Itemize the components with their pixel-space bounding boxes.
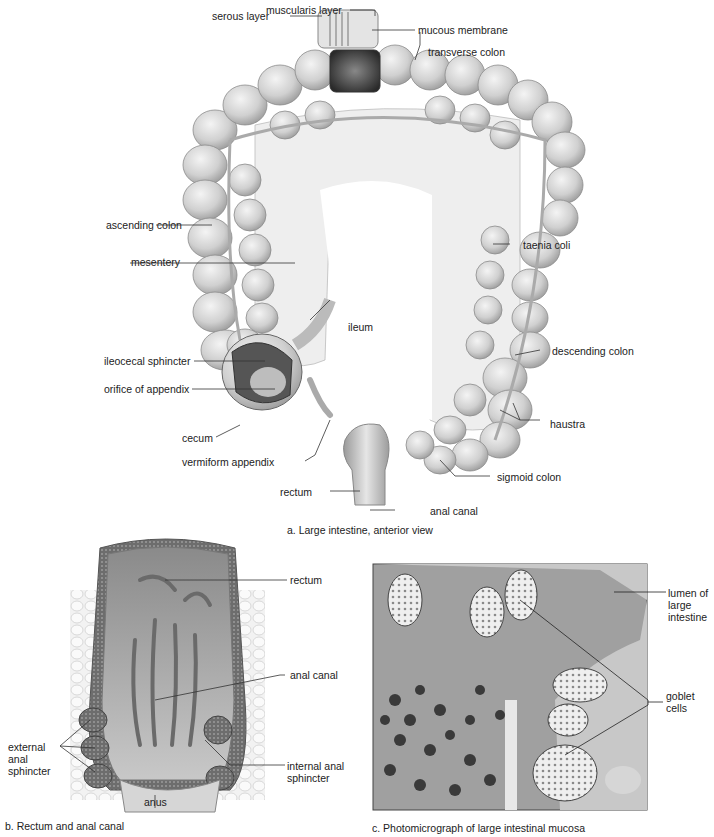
large-intestine-drawing (183, 10, 585, 505)
label-vermiform-appendix: vermiform appendix (182, 456, 274, 468)
caption-panel-a: a. Large intestine, anterior view (287, 524, 433, 536)
label-haustra: haustra (550, 418, 585, 430)
label-anal-canal-b: anal canal (290, 669, 338, 681)
label-ascending-colon: ascending colon (106, 219, 182, 231)
label-anal-canal-a: anal canal (430, 505, 478, 517)
label-mucous-membrane: mucous membrane (418, 24, 508, 36)
caption-panel-c: c. Photomicrograph of large intestinal m… (372, 822, 585, 834)
label-taenia-coli: taenia coli (523, 239, 570, 251)
label-mesentery: mesentery (131, 256, 180, 268)
label-orifice-of-appendix: orifice of appendix (104, 383, 189, 395)
label-transverse-colon: transverse colon (428, 46, 505, 58)
caption-panel-b: b. Rectum and anal canal (5, 820, 124, 832)
label-serous-layer: serous layer (212, 10, 269, 22)
label-internal-anal-sphincter: internal anal sphincter (287, 760, 357, 784)
label-lumen-of-large-intestine: lumen of large intestine (668, 587, 714, 623)
label-muscularis-layer: muscularis layer (266, 4, 342, 16)
label-anus: anus (144, 796, 167, 808)
anatomy-illustration (0, 0, 714, 837)
label-external-anal-sphincter: external anal sphincter (8, 741, 63, 777)
label-descending-colon: descending colon (552, 345, 634, 357)
label-ileocecal-sphincter: ileocecal sphincter (104, 355, 190, 367)
photomicrograph-image (373, 564, 647, 810)
label-goblet-cells: goblet cells (666, 690, 706, 714)
label-rectum-b: rectum (290, 574, 322, 586)
label-rectum-a: rectum (280, 486, 312, 498)
label-ileum: ileum (348, 321, 373, 333)
label-cecum: cecum (182, 432, 213, 444)
label-sigmoid-colon: sigmoid colon (497, 471, 561, 483)
